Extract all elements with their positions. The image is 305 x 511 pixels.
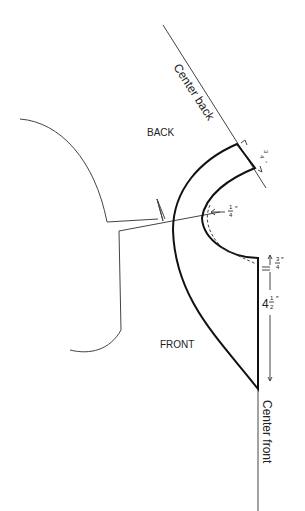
svg-text:3: 3	[263, 150, 269, 154]
svg-text:″: ″	[235, 205, 238, 212]
shoulder-dim-arrow-bottom	[258, 166, 262, 172]
svg-text:4: 4	[262, 297, 269, 311]
pattern-diagram: Center back Center front BACK FRONT 3 4 …	[0, 0, 305, 511]
svg-text:″: ″	[276, 295, 279, 302]
svg-text:1: 1	[229, 204, 233, 210]
shoulder-dim-arrow-top	[241, 140, 247, 145]
front-length-label: 4 1 2 ″	[262, 295, 279, 311]
svg-text:4: 4	[276, 264, 280, 270]
svg-text:4: 4	[229, 212, 233, 218]
svg-text:3: 3	[276, 256, 280, 262]
center-front-label: Center front	[260, 400, 274, 464]
facing-piece	[173, 144, 258, 389]
front-label: FRONT	[160, 339, 194, 350]
shoulder-width-label: 3 4 ″	[259, 150, 269, 164]
svg-text:2: 2	[270, 304, 274, 310]
back-armhole-outline	[20, 119, 158, 222]
center-back-label: Center back	[170, 61, 218, 124]
dart-leg	[157, 199, 165, 219]
back-label: BACK	[147, 127, 175, 138]
neckline-offset-label: 1 4 ″	[228, 204, 238, 218]
svg-text:1: 1	[270, 295, 274, 301]
front-top-drop-label: 3 4 ″	[275, 256, 284, 270]
svg-text:4: 4	[259, 155, 265, 159]
svg-text:″: ″	[281, 256, 284, 263]
svg-text:″: ″	[262, 161, 268, 164]
front-armhole-outline	[70, 212, 220, 352]
